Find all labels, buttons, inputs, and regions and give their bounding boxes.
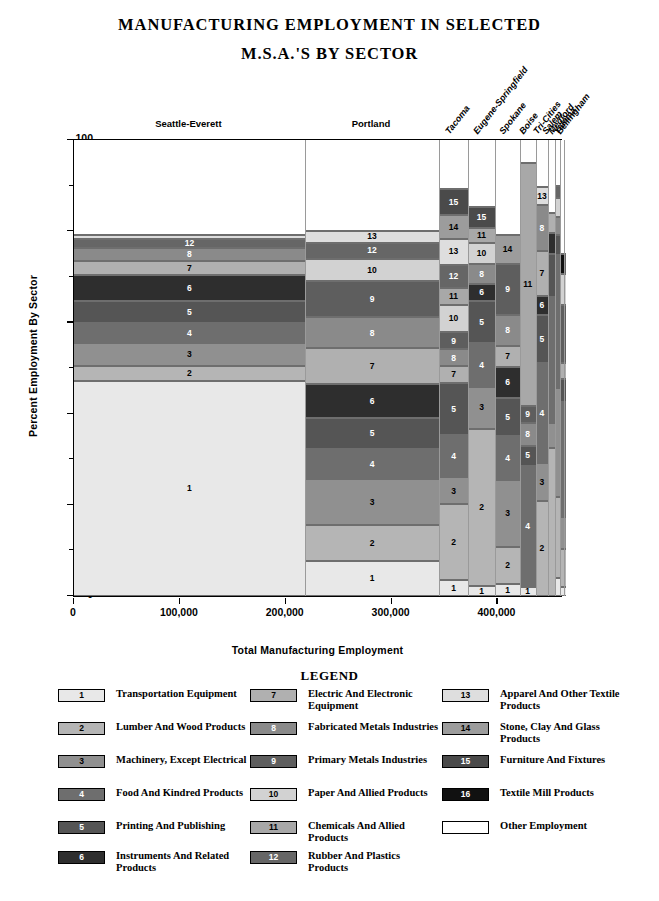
bar-segment: 12	[74, 239, 305, 248]
bar-segment: 1	[468, 586, 496, 596]
bar-segment: 1	[305, 561, 439, 596]
bar-segment: 6	[495, 367, 519, 398]
bar-segment-key: 9	[505, 285, 510, 294]
legend-swatch-key: 12	[269, 853, 278, 862]
legend-label: Machinery, Except Electrical	[116, 754, 246, 766]
bar-segment: 12	[305, 243, 439, 259]
legend-item[interactable]: 4Food And Kindred Products	[58, 787, 248, 801]
legend-swatch-key: 9	[271, 757, 276, 766]
legend-item[interactable]: 10Paper And Allied Products	[250, 787, 440, 801]
bar-column-tacoma[interactable]: 12345789101112131415	[439, 140, 468, 596]
legend-item[interactable]: 1Transportation Equipment	[58, 688, 248, 702]
bar-segment: 3	[305, 479, 439, 525]
bar-segment	[305, 140, 439, 231]
bar-segment	[439, 140, 468, 189]
bar-segment-key: 7	[370, 362, 375, 371]
bar-segment: 5	[495, 398, 519, 437]
bar-segment	[468, 140, 496, 207]
x-tick-label: 0	[28, 606, 118, 618]
bar-segment: 4	[439, 435, 468, 478]
legend-item[interactable]: 2Lumber And Wood Products	[58, 721, 248, 735]
legend-item[interactable]: 13Apparel And Other Textile Products	[442, 688, 632, 711]
bar-segment: 11	[468, 228, 496, 243]
bar-segment-key: 4	[187, 329, 192, 338]
legend-swatch: 14	[442, 722, 489, 735]
column-divider	[548, 140, 549, 596]
legend-item[interactable]: Other Employment	[442, 820, 632, 834]
legend-swatch-key: 8	[271, 724, 276, 733]
bar-segment-key: 2	[187, 369, 192, 378]
legend-item[interactable]: 14Stone, Clay And Glass Products	[442, 721, 632, 744]
bar-segment: 4	[520, 466, 536, 587]
bar-segment-key: 15	[449, 198, 458, 207]
bar-segment-key: 7	[505, 352, 510, 361]
bar-segment-key: 5	[540, 335, 545, 344]
legend-item[interactable]: 7Electric And Electronic Equipment	[250, 688, 440, 711]
bar-segment-key: 1	[525, 587, 530, 596]
legend-item[interactable]: 8Fabricated Metals Industries	[250, 721, 440, 735]
column-divider	[536, 140, 537, 596]
x-tick-label: 300,000	[346, 606, 436, 618]
bar-segment: 2	[439, 504, 468, 580]
bar-segment: 9	[495, 264, 519, 315]
bar-segment: 8	[468, 264, 496, 284]
legend-label: Rubber And Plastics Products	[308, 850, 440, 873]
column-divider	[495, 140, 496, 596]
bar-segment: 9	[305, 281, 439, 317]
bar-column-eugene-springfield[interactable]: 1234568101115	[468, 140, 496, 596]
bar-segment: 3	[536, 463, 549, 501]
bar-segment: 1	[74, 381, 305, 596]
bar-segment-key: 10	[449, 314, 458, 323]
bar-segment: 4	[536, 363, 549, 462]
column-divider	[555, 140, 556, 596]
bar-segment: 2	[305, 525, 439, 561]
bar-segment: 6	[536, 296, 549, 315]
legend-swatch-key: 4	[79, 790, 84, 799]
bar-column-boise[interactable]: 1458911	[520, 140, 536, 596]
legend-item[interactable]: 6Instruments And Related Products	[58, 850, 248, 873]
bar-segment: 3	[439, 477, 468, 504]
legend-swatch: 4	[58, 788, 105, 801]
bar-segment: 2	[468, 429, 496, 586]
x-tick-mark	[496, 598, 497, 604]
bar-segment-key: 12	[449, 272, 458, 281]
bar-segment: 14	[439, 215, 468, 238]
bar-segment	[520, 140, 536, 163]
legend-item[interactable]: 12Rubber And Plastics Products	[250, 850, 440, 873]
bar-segment: 13	[536, 187, 549, 205]
bar-segment-key: 1	[505, 586, 510, 595]
bar-segment-key: 2	[505, 561, 510, 570]
bar-segment-key: 14	[503, 245, 512, 254]
bar-segment-key: 1	[451, 584, 456, 593]
legend-item[interactable]: 3Machinery, Except Electrical	[58, 754, 248, 768]
bar-segment-key: 5	[505, 413, 510, 422]
bar-segment: 3	[468, 387, 496, 429]
column-divider	[520, 140, 521, 596]
bar-column-portland[interactable]: 123456789101213	[305, 140, 439, 596]
legend-item[interactable]: 16Textile Mill Products	[442, 787, 632, 801]
legend-label: Paper And Allied Products	[308, 787, 428, 799]
legend-item[interactable]: 11Chemicals And Allied Products	[250, 820, 440, 843]
bar-column-spokane[interactable]: 12345678914	[495, 140, 519, 596]
bar-segment: 7	[495, 346, 519, 367]
bar-segment-key: 8	[525, 430, 530, 439]
bar-column-seattle-everett[interactable]: 1234567812	[74, 140, 305, 596]
bar-segment-key: 1	[370, 574, 375, 583]
bar-segment-key: 6	[370, 397, 375, 406]
column-divider	[564, 140, 565, 596]
bar-segment: 1	[439, 580, 468, 596]
legend-item[interactable]: 5Printing And Publishing	[58, 820, 248, 834]
legend-swatch: 13	[442, 689, 489, 702]
bar-segment-key: 2	[370, 539, 375, 548]
legend-item[interactable]: 9Primary Metals Industries	[250, 754, 440, 768]
legend-item[interactable]: 15Furniture And Fixtures	[442, 754, 632, 768]
x-tick-label: 200,000	[240, 606, 330, 618]
bar-segment-key: 3	[370, 498, 375, 507]
legend-label: Furniture And Fixtures	[500, 754, 605, 766]
bar-column-tri-cities[interactable]: 234567813	[536, 140, 549, 596]
bar-segment-key: 4	[451, 452, 456, 461]
legend-swatch-key: 5	[79, 823, 84, 832]
legend-swatch: 8	[250, 722, 297, 735]
legend-label: Transportation Equipment	[116, 688, 237, 700]
bar-segment: 9	[520, 406, 536, 423]
